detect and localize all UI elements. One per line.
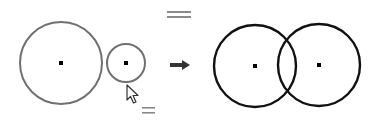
equal-constraint-icon[interactable]: [167, 11, 191, 18]
result-right-center-point: [317, 63, 321, 67]
large-circle-center-point: [59, 61, 63, 65]
small-circle-center-point: [124, 61, 128, 65]
result-left-center-point: [253, 64, 257, 68]
transform-arrow-icon: [170, 60, 190, 70]
mouse-pointer-icon: [127, 85, 138, 103]
equal-constraint-diagram: [0, 0, 381, 126]
after-state: [214, 24, 360, 107]
cursor-equal-constraint-icon: [142, 107, 155, 114]
before-state: [20, 11, 191, 114]
